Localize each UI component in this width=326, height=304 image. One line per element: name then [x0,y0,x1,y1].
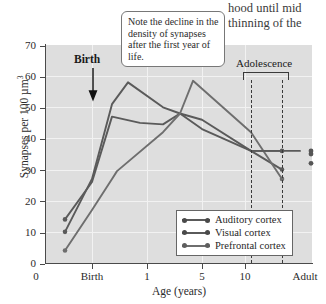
adult-point-visual-cortex [309,152,314,157]
birth-arrow-icon [90,68,97,100]
legend-label-visual: Visual cortex [215,227,271,240]
legend-item-prefrontal-cortex[interactable]: Prefrontal cortex [182,240,286,253]
synapse-density-figure: 0 10 20 30 40 50 60 70 0 Birth 1 5 10 Ad… [0,0,326,304]
legend-line-icon-prefrontal [182,240,210,251]
legend-label-auditory: Auditory cortex [215,214,282,227]
series-endpoint-1-0 [63,230,68,235]
legend-label-prefrontal: Prefrontal cortex [215,240,286,253]
callout-note: Note the decline in the density of synap… [121,11,225,67]
series-endpoint-2-0 [63,248,68,253]
series-line-auditory-cortex [65,114,282,220]
series-endpoint-0-0 [63,217,68,222]
chart-legend: Auditory cortex Visual cortex Prefrontal… [176,210,293,256]
birth-label: Birth [74,53,100,65]
legend-item-auditory-cortex[interactable]: Auditory cortex [182,214,286,227]
legend-line-icon-visual [182,228,210,239]
legend-line-icon-auditory [182,215,210,226]
legend-item-visual-cortex[interactable]: Visual cortex [182,227,286,240]
adolescence-label: Adolescence [236,57,292,69]
adult-point-prefrontal-cortex [309,161,314,166]
adolescence-bracket [243,72,289,80]
